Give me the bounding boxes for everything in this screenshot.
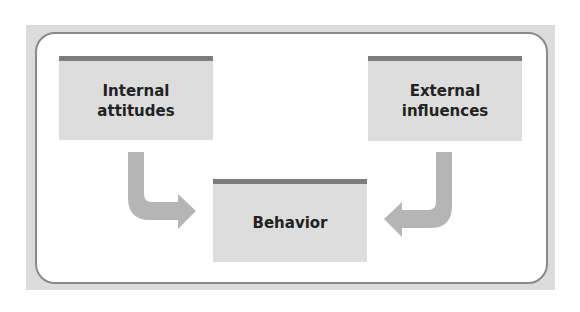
left-curved-arrow-icon <box>128 152 196 229</box>
right-curved-arrow-icon <box>384 152 452 237</box>
arrows-layer <box>0 0 580 312</box>
